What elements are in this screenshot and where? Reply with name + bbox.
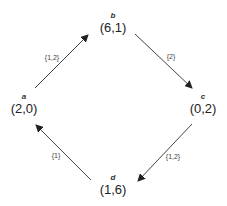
edge-a-to-b-arrow [35,35,88,88]
node-d: d (1,6) [100,174,127,196]
node-c-name: c [190,93,217,101]
edge-a-to-b-label: {1,2} [45,54,59,61]
node-d-name: d [100,174,127,182]
node-a-name: a [11,93,38,101]
node-b-payoff: (6,1) [100,21,127,34]
edge-d-to-a-arrow [36,125,91,180]
node-b: b (6,1) [100,12,127,34]
node-a: a (2,0) [11,93,38,115]
node-d-payoff: (1,6) [100,183,127,196]
edge-b-to-c-label: {2} [167,53,176,60]
edge-c-to-d-label: {1,2} [166,153,180,160]
node-b-name: b [100,12,127,20]
node-a-payoff: (2,0) [11,102,38,115]
edge-d-to-a-label: {1} [52,152,61,159]
diagram-canvas: a (2,0) b (6,1) c (0,2) d (1,6) {1,2} {2… [0,0,227,206]
node-c-payoff: (0,2) [190,102,217,115]
edge-b-to-c-arrow [135,34,192,88]
node-c: c (0,2) [190,93,217,115]
